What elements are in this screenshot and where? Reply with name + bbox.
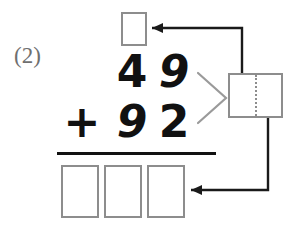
addend-top-ones-digit: 9 xyxy=(154,50,194,94)
addend-top-tens-digit: 4 xyxy=(112,50,152,94)
carry-box[interactable] xyxy=(121,12,147,46)
sum-ones-box[interactable] xyxy=(147,165,185,218)
split-box-divider xyxy=(255,75,257,116)
addend-bottom-ones-digit: 2 xyxy=(154,100,194,144)
addend-bottom-tens-digit: 9 xyxy=(112,100,152,144)
sum-hundreds-box[interactable] xyxy=(61,165,99,218)
sum-rule-line xyxy=(57,152,216,155)
arrow-to-sum-box xyxy=(191,118,268,195)
sum-tens-box[interactable] xyxy=(104,165,142,218)
worksheet-canvas: (2) 4 9 + 9 2 xyxy=(0,0,294,229)
plus-operator: + xyxy=(62,100,102,144)
chevron-right-icon xyxy=(196,70,230,126)
regroup-split-box[interactable] xyxy=(228,73,283,118)
problem-number-label: (2) xyxy=(14,42,60,70)
